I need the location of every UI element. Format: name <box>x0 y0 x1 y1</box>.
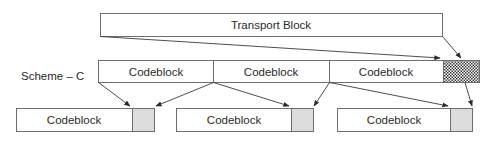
segment-1-label: Codeblock <box>129 66 184 78</box>
transport-block-label: Transport Block <box>231 19 311 31</box>
arrow-icon <box>330 83 449 107</box>
segment-2-label: Codeblock <box>244 66 299 78</box>
arrow-icon <box>443 37 462 59</box>
codeblock-1: Codeblock <box>17 109 155 132</box>
codeblock-2-label: Codeblock <box>207 114 262 126</box>
segment-to-codeblock-arrows <box>99 83 473 107</box>
crc-2 <box>292 109 314 132</box>
arrow-icon <box>214 83 290 107</box>
crc-1 <box>133 109 155 132</box>
codeblock-2: Codeblock <box>177 109 314 132</box>
arrow-icon <box>314 83 330 107</box>
crc-3 <box>451 109 473 132</box>
codeblock-1-label: Codeblock <box>47 114 102 126</box>
segment-3-label: Codeblock <box>359 66 414 78</box>
segmented-row: Codeblock Codeblock Codeblock <box>99 61 480 83</box>
arrow-icon <box>156 83 214 107</box>
codeblock-segmentation-diagram: Transport Block Scheme – C Codeblock Cod… <box>0 0 487 141</box>
codeblock-3-label: Codeblock <box>367 114 422 126</box>
scheme-label: Scheme – C <box>21 70 84 82</box>
transport-block: Transport Block <box>101 14 443 37</box>
transport-to-crc-arrows <box>101 37 462 59</box>
arrow-icon <box>99 83 131 107</box>
codeblock-3: Codeblock <box>338 109 473 132</box>
tb-crc-hatched <box>444 61 480 83</box>
arrow-icon <box>465 83 472 107</box>
arrow-icon <box>101 37 441 59</box>
